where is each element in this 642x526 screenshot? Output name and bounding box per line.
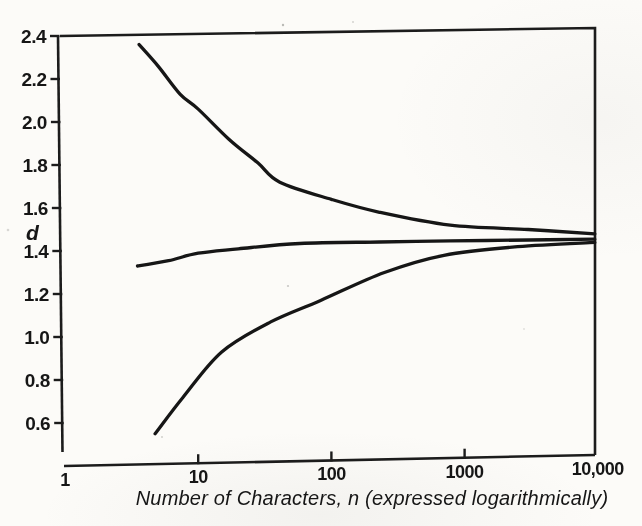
x-tick-label: 1000 <box>446 462 485 482</box>
y-tick-label: 2.2 <box>22 69 47 90</box>
x-axis-title: Number of Characters, n (expressed logar… <box>136 487 609 509</box>
data-curves <box>138 45 595 434</box>
y-axis-line <box>58 36 63 452</box>
x-tick-label: 1 <box>60 470 70 490</box>
y-tick-label: 1.0 <box>24 327 49 348</box>
curve-middle-curve <box>138 239 595 266</box>
y-axis-title: d <box>26 221 40 244</box>
y-tick-label: 1.2 <box>24 284 49 305</box>
scan-speckles <box>7 21 525 438</box>
y-tick-label: 0.6 <box>25 413 50 434</box>
curve-upper-curve <box>139 45 595 234</box>
x-tick-label: 10,000 <box>572 459 625 479</box>
x-tick-label: 10 <box>189 467 209 487</box>
y-tick-label: 1.6 <box>23 198 48 219</box>
scanned-figure-page: 2.42.22.01.81.61.41.21.00.80.6 110100100… <box>0 0 642 526</box>
y-tick-label: 2.0 <box>22 112 47 133</box>
y-tick-label: 1.8 <box>22 155 47 176</box>
y-tick-label: 1.4 <box>23 241 49 262</box>
convergence-line-chart: 2.42.22.01.81.61.41.21.00.80.6 110100100… <box>0 0 642 526</box>
curve-lower-curve <box>155 242 595 433</box>
x-tick-label: 100 <box>317 464 346 484</box>
y-tick-label: 0.8 <box>25 370 50 391</box>
y-tick-label: 2.4 <box>21 26 47 47</box>
